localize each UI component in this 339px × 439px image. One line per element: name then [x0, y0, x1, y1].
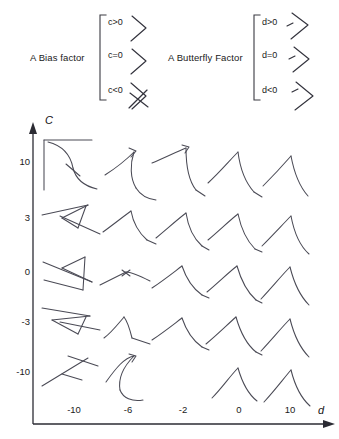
cell-c0-dm2 — [100, 270, 150, 285]
cell-cm3-d0 — [206, 317, 262, 355]
curve-grid — [0, 0, 339, 439]
cell-c10-d0 — [208, 152, 262, 197]
cell-cm3-dm10 — [42, 308, 100, 334]
cell-cm3-d10 — [261, 319, 309, 357]
catastrophe-diagram: A Bias factor c>0 c=0 c<0 A Butterfly Fa… — [0, 0, 339, 439]
cell-c10-dm2 — [152, 145, 205, 196]
cell-c0-d-2 — [152, 266, 209, 298]
cell-c3-dm10 — [42, 205, 100, 234]
cell-c3-d0 — [208, 214, 262, 252]
cell-c0-d0 — [207, 266, 262, 303]
cell-cm10-d0 — [212, 368, 257, 401]
cell-cm10-dm6 — [106, 354, 143, 401]
cell-c3-dm6 — [103, 211, 156, 244]
cell-cm10-dm10 — [42, 356, 98, 386]
cell-c0-d10 — [261, 267, 309, 305]
cell-c10-d10 — [263, 156, 308, 196]
cell-cm3-dm2 — [152, 318, 209, 350]
cell-c10-dm6 — [105, 148, 156, 200]
cell-c3-dm2 — [156, 213, 209, 250]
cell-c10-dm10 — [44, 140, 97, 190]
cell-cm3-dm6 — [104, 317, 150, 344]
cell-c3-d10 — [262, 216, 309, 254]
cell-c0-dm10 — [43, 257, 92, 290]
cell-cm10-d10 — [264, 370, 310, 406]
